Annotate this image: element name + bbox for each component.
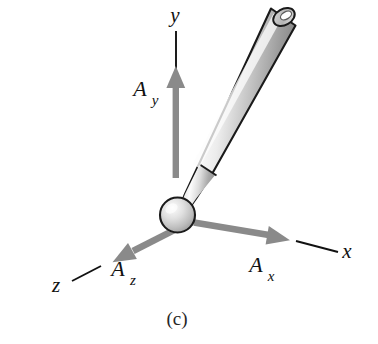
axis-line-x <box>296 241 338 252</box>
figure-caption: (c) <box>166 308 187 330</box>
axis-label-z: z <box>51 273 60 297</box>
vector-arrow-Ay <box>166 66 185 178</box>
axis-label-y: y <box>168 3 180 27</box>
vector-label-Ax: A x <box>247 252 274 284</box>
vector-label-Az: A z <box>109 256 136 288</box>
vector-components-figure: y x z A y A x A z (c) <box>0 0 378 344</box>
vector-label-Az-sub: z <box>129 272 136 288</box>
bat-knob <box>160 198 195 233</box>
axis-label-x: x <box>341 239 352 263</box>
vector-Ay-shaft <box>173 82 179 178</box>
vector-label-Ax-sub: x <box>267 268 275 284</box>
vector-label-Az-main: A <box>109 256 125 281</box>
vector-Ax-head <box>266 226 290 245</box>
vector-label-Ay-main: A <box>131 76 147 101</box>
vector-Ay-head <box>166 66 185 88</box>
vector-Ax-shaft <box>193 219 271 238</box>
vector-label-Ax-main: A <box>247 252 263 277</box>
axis-line-z <box>72 266 101 281</box>
figure-container: y x z A y A x A z (c) <box>0 0 378 344</box>
vector-label-Ay: A y <box>131 76 158 108</box>
vector-label-Ay-sub: y <box>150 92 159 108</box>
vector-arrow-Ax <box>193 219 290 244</box>
bat-highlight <box>193 14 282 169</box>
baseball-bat <box>160 4 298 232</box>
